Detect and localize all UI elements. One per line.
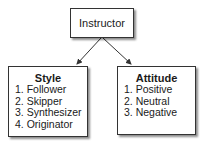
- style-item: 1. Follower: [15, 84, 87, 96]
- instructor-label: Instructor: [79, 17, 125, 29]
- arrow-to-style: [77, 38, 101, 64]
- style-box: Style 1. Follower 2. Skipper 3. Synthesi…: [8, 66, 88, 137]
- attitude-item: 3. Negative: [124, 107, 195, 119]
- arrow-to-attitude: [103, 38, 131, 64]
- instructor-box: Instructor: [70, 8, 134, 38]
- attitude-item: 1. Positive: [124, 84, 195, 96]
- attitude-box: Attitude 1. Positive 2. Neutral 3. Negat…: [117, 66, 196, 135]
- style-item: 3. Synthesizer: [15, 107, 87, 119]
- style-item: 4. Originator: [15, 119, 87, 131]
